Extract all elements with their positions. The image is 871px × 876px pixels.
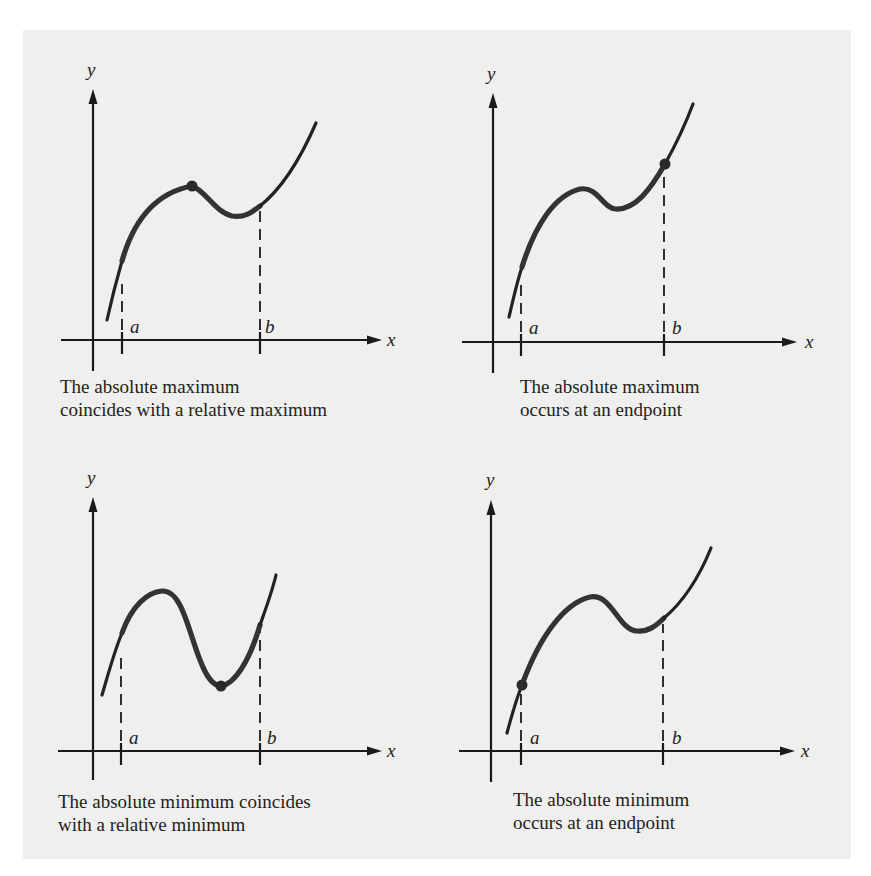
curve-outside: [260, 123, 316, 206]
extremum-dot: [660, 159, 671, 170]
caption-line-2: occurs at an endpoint: [513, 812, 676, 833]
y-axis-arrow-icon: [489, 93, 498, 108]
x-axis-arrow-icon: [780, 747, 795, 756]
extrema-figure: y x a b The absolute maximum coincides w…: [0, 0, 871, 876]
graph-abs-min-relative-min: y x a b The absolute minimum coincides w…: [58, 467, 396, 835]
y-axis-arrow-icon: [89, 497, 98, 512]
curve-outside: [102, 633, 122, 695]
extremum-dot: [216, 681, 227, 692]
graph-abs-max-relative-max: y x a b The absolute maximum coincides w…: [60, 59, 396, 420]
label-b: b: [267, 727, 277, 748]
y-axis-label: y: [484, 469, 495, 490]
label-b: b: [265, 316, 275, 337]
x-axis-label: x: [800, 740, 810, 761]
y-axis-label: y: [485, 63, 496, 84]
graph-abs-max-endpoint: y x a b The absolute maximum occurs at a…: [462, 63, 814, 420]
extremum-dot: [517, 680, 528, 691]
curve-outside: [260, 575, 276, 625]
curve-outside: [507, 685, 522, 733]
x-axis-label: x: [386, 329, 396, 350]
label-a: a: [130, 316, 140, 337]
label-b: b: [672, 317, 682, 338]
x-axis-arrow-icon: [782, 338, 797, 347]
graph-abs-min-endpoint: y x a b The absolute minimum occurs at a…: [459, 469, 810, 833]
y-axis-arrow-icon: [487, 500, 496, 515]
curve-interval: [122, 186, 260, 261]
label-a: a: [529, 317, 539, 338]
curve-outside: [509, 267, 522, 317]
curve-outside: [664, 548, 711, 618]
caption-line-1: The absolute maximum: [520, 376, 700, 397]
x-axis-arrow-icon: [367, 747, 382, 756]
y-axis-label: y: [85, 467, 96, 488]
curve-interval: [122, 591, 260, 686]
label-a: a: [129, 727, 139, 748]
y-axis-arrow-icon: [89, 89, 98, 104]
caption-line-2: occurs at an endpoint: [520, 399, 683, 420]
caption-line-2: with a relative minimum: [58, 814, 246, 835]
x-axis-label: x: [386, 740, 396, 761]
label-b: b: [672, 727, 682, 748]
caption-line-1: The absolute maximum: [60, 376, 240, 397]
curve-interval: [522, 597, 664, 685]
curve-outside: [107, 261, 122, 320]
x-axis-arrow-icon: [367, 336, 382, 345]
y-axis-label: y: [85, 59, 96, 80]
caption-line-2: coincides with a relative maximum: [60, 399, 327, 420]
curve-outside: [665, 104, 693, 164]
label-a: a: [530, 727, 540, 748]
extremum-dot: [187, 181, 198, 192]
curve-interval: [522, 164, 665, 267]
caption-line-1: The absolute minimum coincides: [58, 791, 311, 812]
caption-line-1: The absolute minimum: [513, 789, 689, 810]
x-axis-label: x: [804, 331, 814, 352]
